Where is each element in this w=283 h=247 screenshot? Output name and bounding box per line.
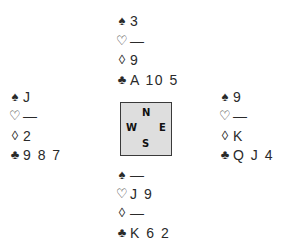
club-icon: ♣ [115, 71, 129, 89]
west-spades-cards: J [23, 88, 32, 106]
diamond-icon: ◊ [115, 51, 129, 69]
east-hearts-cards: — [233, 107, 249, 125]
compass-south: S [142, 138, 149, 149]
compass-west: W [126, 122, 137, 133]
compass-east: E [159, 122, 166, 133]
east-spades-cards: 9 [233, 88, 242, 106]
east-diamonds-cards: K [233, 127, 244, 145]
club-icon: ♣ [115, 224, 129, 242]
spade-icon: ♠ [8, 88, 22, 106]
east-clubs-cards: Q J 4 [233, 146, 274, 164]
south-spades-cards: — [130, 166, 146, 184]
spade-icon: ♠ [218, 88, 232, 106]
spade-icon: ♠ [115, 166, 129, 184]
north-spades-cards: 3 [130, 12, 139, 30]
heart-icon: ♡ [115, 32, 129, 50]
north-hearts-cards: — [130, 32, 146, 50]
heart-icon: ♡ [8, 107, 22, 125]
south-clubs-cards: K 6 2 [130, 224, 170, 242]
north-clubs-cards: A 10 5 [130, 71, 179, 89]
west-hearts-cards: — [23, 107, 39, 125]
heart-icon: ♡ [115, 185, 129, 203]
diamond-icon: ◊ [218, 127, 232, 145]
club-icon: ♣ [8, 146, 22, 164]
west-clubs-cards: 9 8 7 [23, 146, 62, 164]
heart-icon: ♡ [218, 107, 232, 125]
diamond-icon: ◊ [8, 127, 22, 145]
south-diamonds-cards: — [130, 204, 146, 222]
compass-north: N [142, 107, 150, 118]
club-icon: ♣ [218, 146, 232, 164]
north-diamonds-cards: 9 [130, 51, 139, 69]
south-hearts-cards: J 9 [130, 185, 153, 203]
spade-icon: ♠ [115, 12, 129, 30]
west-diamonds-cards: 2 [23, 127, 32, 145]
compass-box: N W E S [120, 102, 172, 156]
diamond-icon: ◊ [115, 204, 129, 222]
